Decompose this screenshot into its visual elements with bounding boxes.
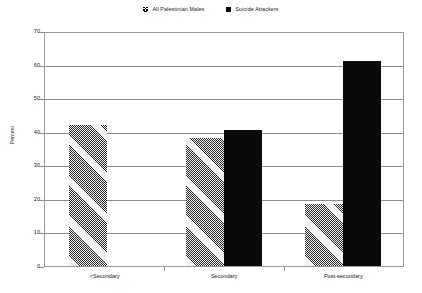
chart-legend: All Palestinian Males Suicide Attackers xyxy=(0,7,422,12)
y-tick-mark xyxy=(39,133,44,134)
y-tick-mark xyxy=(39,66,44,67)
bar-all-palestinian-males xyxy=(305,204,343,266)
y-tick-mark xyxy=(39,166,44,167)
x-tick-label: Post-secondary xyxy=(324,274,363,280)
legend-label-all-palestinian-males: All Palestinian Males xyxy=(152,7,204,12)
bar-suicide-attackers xyxy=(224,130,262,266)
y-tick-label: 50 xyxy=(6,96,40,102)
y-tick-mark xyxy=(39,32,44,33)
y-tick-label: 20 xyxy=(6,197,40,203)
y-tick-label: 40 xyxy=(6,130,40,136)
x-tick-label: <Secondary xyxy=(90,274,120,280)
y-tick-label: 30 xyxy=(6,163,40,169)
y-axis-labels: 706050403020100 xyxy=(0,0,40,293)
legend-label-suicide-attackers: Suicide Attackers xyxy=(235,7,278,12)
y-tick-mark xyxy=(39,200,44,201)
y-tick-label: 10 xyxy=(6,230,40,236)
y-tick-label: 0 xyxy=(6,264,40,270)
legend-item-suicide-attackers: Suicide Attackers xyxy=(226,7,278,12)
legend-item-all-palestinian-males: All Palestinian Males xyxy=(143,7,204,12)
x-tick-label: Secondary xyxy=(211,274,238,280)
black-square-icon xyxy=(226,7,231,12)
bars-layer xyxy=(45,33,403,266)
y-tick-mark xyxy=(39,267,44,268)
y-tick-mark xyxy=(39,99,44,100)
bar-suicide-attackers xyxy=(343,61,381,266)
bar-all-palestinian-males xyxy=(186,138,224,266)
bar-all-palestinian-males xyxy=(69,125,107,266)
x-tick-mark xyxy=(284,267,285,271)
hatched-square-icon xyxy=(143,7,148,12)
y-tick-label: 60 xyxy=(6,63,40,69)
y-tick-label: 70 xyxy=(6,29,40,35)
y-tick-mark xyxy=(39,233,44,234)
x-tick-mark xyxy=(164,267,165,271)
